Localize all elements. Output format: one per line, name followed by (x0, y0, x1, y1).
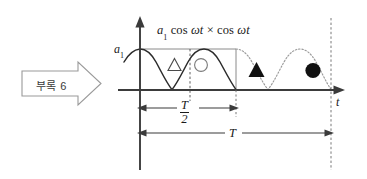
x-axis-label: t (336, 95, 339, 110)
filled-circle-icon (305, 63, 320, 78)
full-period-arrow-right (325, 130, 335, 137)
formula-omega-t-2: ωt (237, 23, 250, 37)
half-period-arrow-left (137, 105, 147, 112)
amplitude-label-subscript: 1 (120, 51, 124, 60)
open-triangle-icon (168, 59, 181, 71)
half-period-arrow-right (230, 105, 240, 112)
amplitude-label: a1 (114, 42, 124, 58)
open-circle-icon (195, 59, 208, 72)
figure-container: 부록 6 a1 cos ωt × cos ωt a1 t T2 T (0, 0, 367, 179)
formula-omega-t-1: ωt (191, 23, 204, 37)
formula-cos-2: cos (217, 23, 234, 37)
filled-triangle-icon (249, 62, 265, 77)
half-period-denominator: 2 (180, 113, 189, 126)
half-period-numerator: T (180, 99, 189, 113)
formula-cos-1: cos (171, 23, 188, 37)
half-period-label: T2 (180, 99, 189, 127)
x-axis-arrowhead (334, 86, 346, 95)
appendix-badge-label: 부록 6 (36, 77, 67, 93)
formula-amplitude-subscript: 1 (163, 33, 167, 42)
full-period-arrow-left (137, 130, 147, 137)
formula-times: × (207, 23, 214, 37)
full-period-label: T (229, 126, 236, 141)
title-formula: a1 cos ωt × cos ωt (157, 23, 250, 40)
y-axis-arrowhead (135, 16, 144, 28)
